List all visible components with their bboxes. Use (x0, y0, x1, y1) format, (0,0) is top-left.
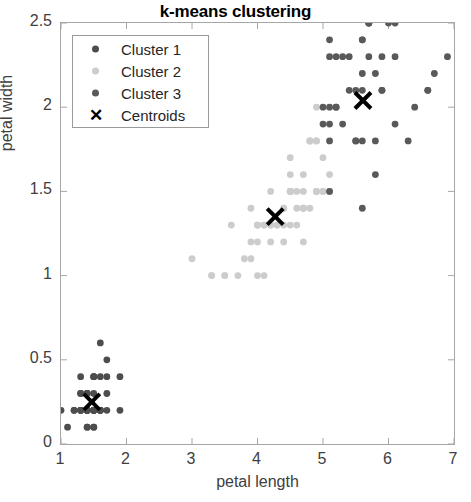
x-tick-label: 2 (106, 450, 146, 468)
y-tick-label: 1 (6, 265, 52, 283)
legend-item-1[interactable]: Cluster 1 (73, 38, 210, 60)
x-tick-label: 6 (368, 450, 408, 468)
y-tick-label: 1.5 (6, 180, 52, 198)
cluster-series-1 (61, 340, 123, 431)
cluster-series-2 (189, 104, 333, 279)
chart-title: k-means clustering (0, 2, 471, 22)
x-tick-label: 1 (40, 450, 80, 468)
cluster-series-3 (320, 23, 451, 212)
y-tick-label: 0 (6, 433, 52, 451)
x-tick-label: 3 (171, 450, 211, 468)
legend-label: Cluster 3 (121, 85, 181, 102)
legend-item-2[interactable]: Cluster 2 (73, 60, 210, 82)
x-axis-label: petal length (60, 473, 455, 491)
legend-label: Cluster 1 (121, 41, 181, 58)
legend-box[interactable]: Cluster 1Cluster 2Cluster 3✕Centroids (72, 35, 209, 128)
legend-item-4[interactable]: ✕Centroids (73, 104, 210, 126)
legend-circle-marker-icon (92, 68, 99, 75)
x-tick-label: 4 (237, 450, 277, 468)
legend-label: Centroids (121, 107, 185, 124)
y-tick-label: 2.5 (6, 12, 52, 30)
legend-label: Cluster 2 (121, 63, 181, 80)
legend-item-3[interactable]: Cluster 3 (73, 82, 210, 104)
legend-x-marker-icon: ✕ (89, 105, 103, 126)
y-tick-label: 0.5 (6, 349, 52, 367)
y-tick-label: 2 (6, 96, 52, 114)
legend-circle-marker-icon (92, 46, 99, 53)
figure-canvas: k-means clustering petal width petal len… (0, 0, 471, 502)
legend-circle-marker-icon (92, 90, 99, 97)
x-tick-label: 7 (433, 450, 471, 468)
x-tick-label: 5 (302, 450, 342, 468)
